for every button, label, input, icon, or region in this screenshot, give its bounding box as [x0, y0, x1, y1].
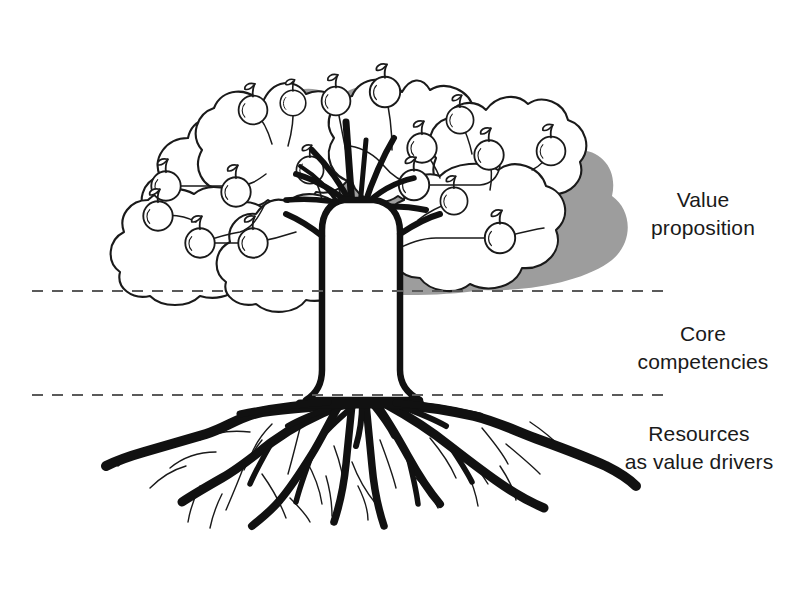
apple-tree-illustration [0, 0, 804, 595]
label-value-proposition: Value proposition [612, 186, 794, 241]
label-resources-as-value-drivers: Resources as value drivers [596, 420, 802, 475]
label-core-competencies: Core competencies [612, 320, 794, 375]
apple [322, 74, 351, 115]
apple [239, 83, 268, 124]
diagram-canvas: Value proposition Core competencies Reso… [0, 0, 804, 595]
main-roots [106, 402, 636, 526]
apple [370, 64, 400, 107]
